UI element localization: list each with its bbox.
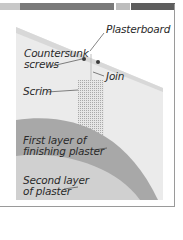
label-second-layer-line2: of plaster — [23, 186, 89, 197]
label-first-layer-line2: finishing plaster — [23, 146, 104, 157]
label-countersunk-line2: screws — [24, 59, 89, 70]
label-plasterboard: Plasterboard — [106, 24, 170, 35]
label-join: Join — [106, 71, 124, 82]
label-second-layer: Second layer of plaster — [23, 175, 89, 197]
label-first-layer: First layer of finishing plaster — [23, 135, 104, 157]
label-scrim: Scrim — [23, 86, 52, 97]
screw-icon-right — [96, 60, 100, 64]
label-countersunk-screws: Countersunk screws — [24, 48, 89, 70]
leader-plasterboard — [90, 33, 104, 51]
